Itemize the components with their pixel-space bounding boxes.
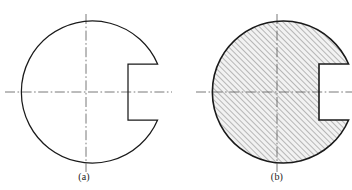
figure-a-caption: (a) <box>60 171 108 182</box>
figure-b-group <box>196 14 352 172</box>
engineering-drawing-canvas <box>0 0 352 190</box>
figure-a-group <box>5 14 172 172</box>
technical-drawing-sheet: (a) (b) <box>0 0 352 190</box>
figure-b-caption: (b) <box>253 171 301 182</box>
figure-a-centerlines <box>5 14 172 172</box>
